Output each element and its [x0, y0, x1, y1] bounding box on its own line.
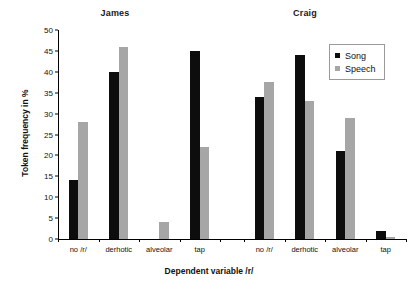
x-tick-label: alveolar: [146, 245, 172, 254]
x-tick-mark: [139, 239, 140, 242]
bar-james-tap-song: [190, 51, 200, 239]
bar-james-alveolar-speech: [159, 222, 169, 239]
x-tick-mark: [325, 239, 326, 242]
x-tick-mark: [406, 239, 407, 242]
y-tick-label: 50: [9, 26, 58, 35]
y-tick-mark: [55, 134, 58, 135]
x-axis-line: [58, 239, 407, 240]
bar-craig-nor-song: [255, 97, 265, 239]
y-tick-label: 10: [9, 193, 58, 202]
y-tick-label: 30: [9, 109, 58, 118]
y-tick-label: 40: [9, 67, 58, 76]
y-tick-mark: [55, 92, 58, 93]
bar-james-nor-song: [69, 180, 79, 239]
x-tick-label: derhotic: [105, 245, 132, 254]
legend: Song Speech: [329, 44, 385, 80]
y-tick-mark: [55, 30, 58, 31]
x-tick-mark: [285, 239, 286, 242]
y-tick-label: 5: [9, 214, 58, 223]
bar-james-derhotic-song: [109, 72, 119, 239]
y-tick-mark: [55, 197, 58, 198]
x-tick-mark: [366, 239, 367, 242]
bar-craig-tap-song: [376, 231, 386, 239]
legend-swatch-song-icon: [335, 53, 340, 58]
bar-craig-nor-speech: [264, 82, 274, 239]
bar-craig-alveolar-speech: [345, 118, 355, 239]
bar-craig-derhotic-song: [295, 55, 305, 239]
bar-craig-alveolar-song: [336, 151, 346, 239]
x-tick-label: no /r/: [256, 245, 273, 254]
bar-chart-figure: James Craig Token frequency in % Depende…: [0, 0, 418, 291]
x-tick-mark: [99, 239, 100, 242]
y-tick-mark: [55, 218, 58, 219]
legend-item-speech: Speech: [335, 62, 376, 75]
legend-swatch-speech-icon: [335, 66, 340, 71]
bar-james-nor-speech: [78, 122, 88, 239]
bar-james-tap-speech: [200, 147, 210, 239]
y-tick-label: 25: [9, 130, 58, 139]
legend-label-song: Song: [345, 51, 366, 61]
legend-label-speech: Speech: [345, 64, 376, 74]
y-tick-label: 20: [9, 151, 58, 160]
x-tick-mark: [244, 239, 245, 242]
y-tick-mark: [55, 113, 58, 114]
x-axis-title: Dependent variable /r/: [0, 266, 418, 276]
y-tick-label: 15: [9, 172, 58, 181]
y-tick-label: 35: [9, 88, 58, 97]
x-tick-label: alveolar: [332, 245, 358, 254]
y-tick-mark: [55, 50, 58, 51]
x-tick-mark: [180, 239, 181, 242]
y-tick-mark: [55, 71, 58, 72]
group-title-craig: Craig: [250, 8, 360, 18]
y-tick-label: 0: [9, 235, 58, 244]
group-title-james: James: [60, 8, 170, 18]
y-tick-mark: [55, 155, 58, 156]
bar-craig-tap-speech: [386, 237, 396, 239]
x-tick-label: tap: [195, 245, 205, 254]
x-tick-label: derhotic: [291, 245, 318, 254]
y-tick-label: 45: [9, 46, 58, 55]
x-tick-label: tap: [381, 245, 391, 254]
x-tick-mark: [58, 239, 59, 242]
x-tick-mark: [220, 239, 221, 242]
x-tick-label: no /r/: [70, 245, 87, 254]
bar-craig-derhotic-speech: [305, 101, 315, 239]
y-tick-mark: [55, 176, 58, 177]
bar-james-derhotic-speech: [119, 47, 129, 239]
legend-item-song: Song: [335, 49, 376, 62]
